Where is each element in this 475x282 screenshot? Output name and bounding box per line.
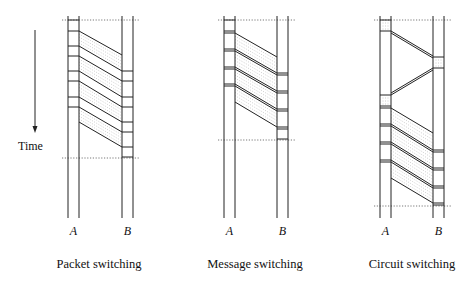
time-label: Time <box>18 139 43 153</box>
endpoint-a-label: A <box>69 224 78 238</box>
hatch-line <box>235 96 277 121</box>
transmission-edge <box>79 46 122 71</box>
setup-signal-edge <box>391 33 433 58</box>
transmission-edge <box>79 97 122 122</box>
hatch-line <box>79 40 122 65</box>
transmission-edge <box>79 107 122 132</box>
hatch-line <box>391 157 433 183</box>
endpoint-b-label: B <box>279 224 287 238</box>
arrowhead-icon <box>33 126 38 133</box>
panel-packet-switching: ABPacket switching <box>56 16 142 271</box>
transmission-edge <box>79 81 122 107</box>
hatch-band-group <box>79 34 122 144</box>
setup-signal-edge <box>391 31 433 56</box>
hatch-line <box>235 89 277 114</box>
endpoint-b-label: B <box>124 224 132 238</box>
panel-title: Packet switching <box>56 257 142 271</box>
hatch-line <box>235 99 277 124</box>
hatch-line <box>79 43 122 68</box>
hatch-band-group <box>235 36 277 124</box>
hatch-line <box>391 121 433 147</box>
hatch-line <box>79 110 122 135</box>
endpoint-b-label: B <box>435 224 443 238</box>
transmission-edge <box>235 51 277 75</box>
transmission-edge <box>235 33 277 57</box>
transmission-edge <box>79 56 122 81</box>
time-axis: Time <box>18 30 43 153</box>
hatch-line <box>391 165 433 191</box>
transmission-edge <box>79 122 122 147</box>
endpoint-a-label: A <box>225 224 234 238</box>
ack-signal-edge <box>391 68 433 93</box>
hatch-line <box>235 46 277 70</box>
hatch-line <box>235 64 277 88</box>
hatch-line <box>391 111 433 136</box>
transmission-edge <box>235 49 277 73</box>
hatch-line <box>235 36 277 60</box>
hatch-line <box>235 81 277 106</box>
transmission-edge <box>79 31 122 55</box>
hatch-line <box>235 39 277 63</box>
hatch-line <box>79 119 122 144</box>
panel-title: Circuit switching <box>369 257 456 271</box>
hatch-band-group <box>391 111 433 200</box>
hatch-line <box>391 175 433 200</box>
panel-message-switching: ABMessage switching <box>207 16 303 271</box>
hatch-line <box>391 114 433 139</box>
transmission-edge <box>391 108 433 133</box>
switching-diagram: Time ABPacket switching ABMessage switch… <box>0 0 475 282</box>
panel-title: Message switching <box>207 257 303 271</box>
endpoint-a-label: A <box>381 224 390 238</box>
hatch-line <box>79 59 122 84</box>
hatch-line <box>235 72 277 96</box>
hatch-line <box>79 34 122 58</box>
hatch-line <box>235 54 277 78</box>
ack-signal-edge <box>391 70 433 95</box>
hatch-line <box>79 84 122 110</box>
panel-circuit-switching: ABCircuit switching <box>369 16 456 271</box>
